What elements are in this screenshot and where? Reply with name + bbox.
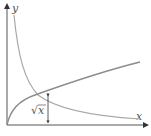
function-diagram: y x √ x	[0, 0, 151, 136]
square-root-curve	[7, 62, 140, 125]
x-axis-label: x	[136, 110, 143, 123]
sqrt-annotation-radicand: x	[38, 104, 45, 117]
y-axis-label: y	[11, 2, 19, 15]
